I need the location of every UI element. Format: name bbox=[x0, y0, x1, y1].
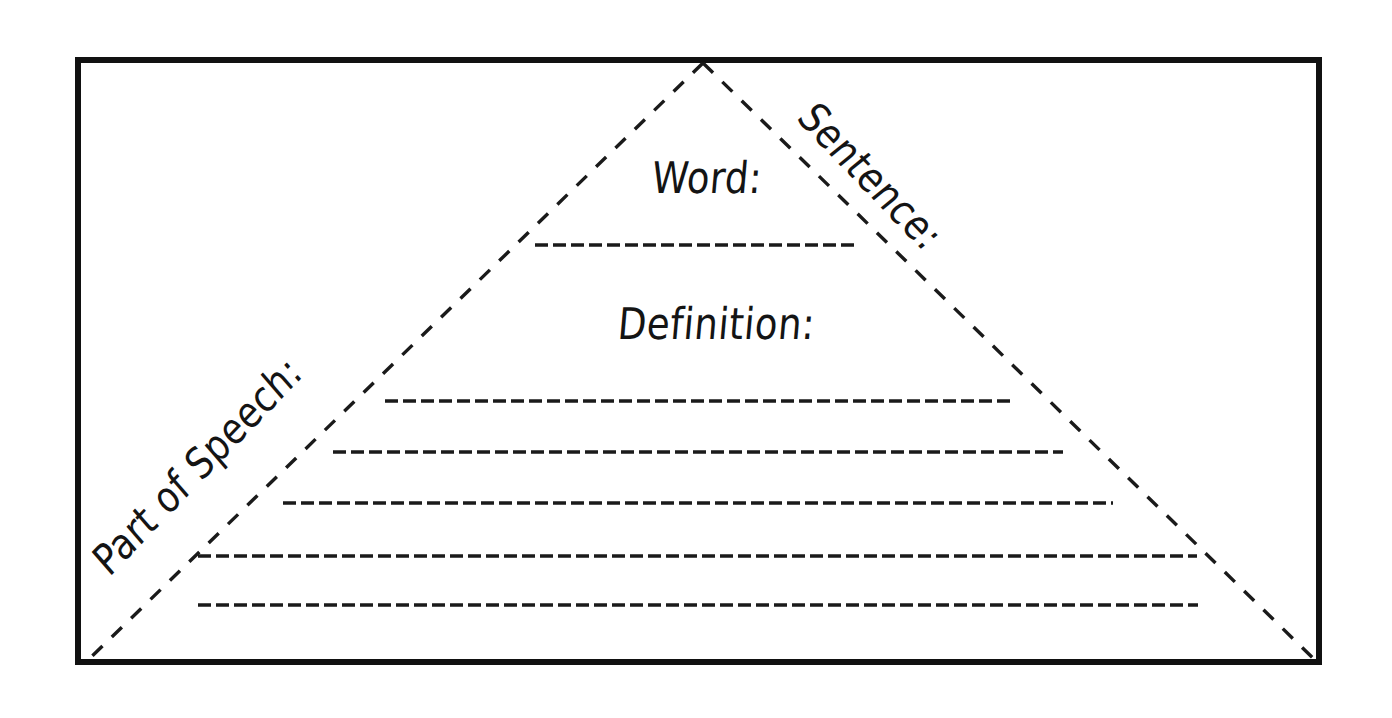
word-label: Word: bbox=[650, 157, 764, 201]
outer-border bbox=[75, 57, 1322, 665]
vocabulary-pyramid-worksheet: Word: Definition: Sentence: Part of Spee… bbox=[0, 0, 1392, 718]
definition-label: Definition: bbox=[616, 303, 817, 347]
